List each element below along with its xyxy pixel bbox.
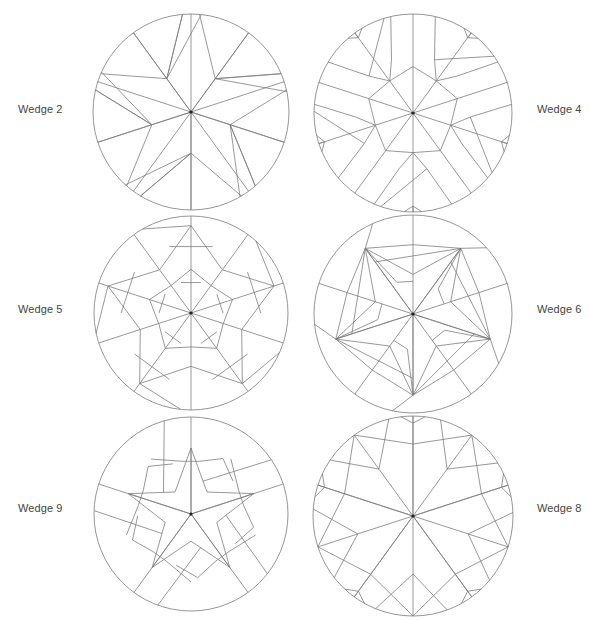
crease-line — [468, 38, 478, 39]
crease-line — [365, 248, 375, 301]
crease-line — [98, 82, 191, 112]
crease-line — [99, 329, 141, 342]
crease-line — [413, 314, 490, 339]
crease-line — [413, 82, 507, 113]
crease-line — [203, 460, 271, 481]
crease-line — [356, 117, 376, 125]
crease-line — [447, 463, 498, 469]
crease-line — [413, 113, 471, 193]
crease-line — [369, 81, 390, 99]
crease-line — [242, 329, 243, 383]
crease-line — [222, 235, 248, 270]
crease-line — [336, 320, 378, 340]
crease-line — [451, 248, 461, 301]
crease-line — [191, 313, 242, 329]
crease-line — [226, 515, 268, 574]
crease-line — [313, 509, 358, 534]
crease-line — [435, 56, 495, 60]
crease-line — [230, 90, 286, 125]
crease-line — [191, 448, 207, 492]
crease-line — [341, 113, 414, 137]
crease-line — [413, 245, 461, 249]
crease-line — [191, 283, 283, 313]
crease-line — [318, 547, 371, 574]
crease-line — [230, 125, 240, 197]
crease-line — [376, 574, 413, 609]
crease-line — [191, 82, 284, 112]
crease-line — [451, 302, 491, 339]
crease-line — [470, 117, 492, 173]
crease-line — [322, 474, 324, 488]
crease-line — [336, 339, 390, 346]
crease-line — [413, 516, 468, 534]
label-wedge-9: Wedge 9 — [18, 502, 63, 514]
crease-line — [125, 153, 191, 185]
crease-line — [163, 421, 164, 493]
crease-line — [413, 485, 508, 516]
crease-line — [191, 494, 254, 514]
crease-line — [217, 494, 254, 523]
crease-line — [128, 494, 165, 523]
crease-line — [413, 151, 440, 153]
crease-line — [217, 323, 224, 348]
center-vertex-icon — [189, 311, 192, 314]
crease-line — [211, 286, 233, 300]
crease-line — [399, 153, 413, 169]
crease-line — [354, 435, 379, 469]
crease-line — [447, 435, 472, 469]
crease-line — [152, 522, 165, 567]
crease-line — [413, 417, 425, 423]
crease-line — [413, 153, 427, 169]
crease-line — [457, 62, 498, 76]
crease-line — [413, 469, 447, 516]
crease-line — [199, 459, 223, 462]
crease-line — [481, 494, 508, 547]
crease-diagram-wedge-5 — [94, 216, 288, 410]
label-wedge-6: Wedge 6 — [537, 303, 582, 315]
crease-line — [133, 540, 154, 552]
label-wedge-2: Wedge 2 — [18, 103, 63, 115]
crease-line — [244, 506, 254, 528]
crease-line — [149, 286, 171, 300]
crease-line — [358, 516, 413, 534]
crease-line — [318, 494, 345, 547]
crease-line — [191, 33, 249, 112]
crease-line — [207, 492, 254, 494]
crease-line — [438, 289, 444, 304]
crease-line — [470, 104, 511, 117]
crease-pattern-canvas — [0, 0, 589, 620]
crease-line — [242, 329, 284, 342]
crease-line — [441, 420, 448, 469]
crease-line — [319, 142, 325, 144]
crease-line — [201, 332, 217, 344]
crease-line — [401, 417, 413, 423]
crease-line — [354, 435, 413, 444]
crease-line — [167, 14, 183, 78]
crease-line — [413, 283, 507, 314]
crease-line — [242, 286, 274, 329]
crease-line — [381, 169, 427, 207]
crease-line — [378, 304, 382, 320]
crease-line — [159, 323, 166, 348]
crease-line — [501, 474, 503, 488]
crease-line — [319, 82, 413, 113]
crease-diagram-wedge-9 — [94, 417, 288, 611]
crease-line — [413, 66, 436, 80]
crease-line — [374, 169, 399, 204]
crease-line — [191, 514, 230, 567]
crease-line — [355, 113, 413, 193]
crease-line — [455, 547, 508, 574]
crease-line — [451, 117, 471, 125]
crease-line — [191, 112, 284, 142]
crease-line — [328, 62, 369, 76]
crease-line — [451, 262, 490, 339]
crease-line — [413, 516, 472, 597]
crease-line — [314, 111, 364, 143]
crease-line — [390, 60, 392, 81]
crease-line — [134, 235, 160, 270]
crease-line — [386, 151, 413, 153]
crease-line — [215, 79, 287, 92]
crease-line — [171, 269, 191, 285]
crease-line — [368, 51, 413, 113]
crease-line — [152, 541, 191, 567]
